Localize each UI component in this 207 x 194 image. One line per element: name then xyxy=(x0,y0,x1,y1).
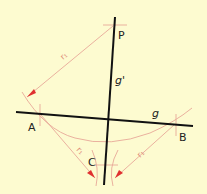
arc-c-right xyxy=(111,150,118,186)
label-g-prime: g' xyxy=(115,74,125,87)
label-r1-left: r₁ xyxy=(75,145,86,156)
label-b: B xyxy=(179,131,187,144)
r1-line-right xyxy=(115,125,174,178)
arrow-left-icon xyxy=(87,170,95,178)
label-r1-top: r₁ xyxy=(59,50,70,61)
perpendicular-construction-diagram: P g' g A B C r₁ r₁ r₁ xyxy=(0,0,207,194)
main-lines xyxy=(16,17,193,185)
r1-line-top xyxy=(27,26,113,97)
tick-marks xyxy=(40,25,176,165)
label-c: C xyxy=(88,156,96,169)
r1-line-left xyxy=(41,115,95,178)
radius-lines xyxy=(27,26,174,178)
label-p: P xyxy=(118,29,125,42)
label-g: g xyxy=(152,107,159,120)
label-a: A xyxy=(28,121,36,134)
arrow-right-icon xyxy=(115,170,123,178)
